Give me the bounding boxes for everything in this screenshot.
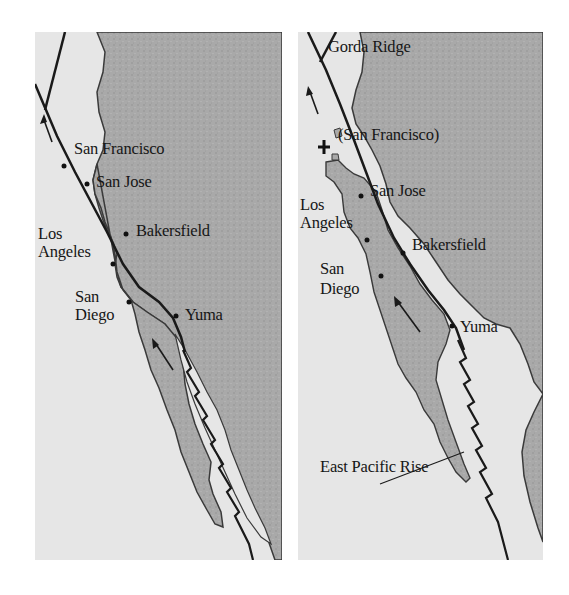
label-san-francisco: (San Francisco): [338, 126, 439, 143]
city-dot-icon: [365, 238, 370, 243]
label-yuma: Yuma: [460, 318, 498, 335]
map-panel-future: Gorda Ridge (San Francisco) San Jose Los…: [298, 32, 543, 560]
label-san-jose: San Jose: [370, 182, 426, 199]
city-dot-icon: [62, 164, 67, 169]
city-dot-icon: [127, 300, 132, 305]
label-los: Los: [38, 225, 62, 242]
label-gorda-ridge: Gorda Ridge: [328, 38, 411, 55]
city-dot-icon: [111, 262, 116, 267]
map-panel-present: San Francisco San Jose Los Angeles Baker…: [35, 32, 282, 560]
city-dot-icon: [174, 314, 179, 319]
label-san-jose: San Jose: [96, 173, 152, 190]
label-yuma: Yuma: [185, 306, 223, 323]
label-san-francisco: San Francisco: [74, 140, 164, 157]
label-bakersfield: Bakersfield: [412, 236, 486, 253]
city-dot-icon: [450, 324, 455, 329]
city-dot-icon: [85, 182, 90, 187]
city-dot-icon: [124, 232, 129, 237]
label-los: Los: [300, 196, 324, 213]
label-san: San: [75, 288, 99, 305]
city-dot-icon: [401, 251, 406, 256]
city-dot-icon: [379, 274, 384, 279]
label-angeles: Angeles: [38, 243, 91, 260]
city-dot-icon: [359, 194, 364, 199]
label-diego: Diego: [75, 306, 114, 323]
label-bakersfield: Bakersfield: [136, 222, 210, 239]
label-angeles: Angeles: [300, 214, 353, 231]
island: [332, 154, 339, 160]
map-svg-present: [35, 32, 282, 560]
label-diego: Diego: [320, 280, 359, 297]
label-east-pacific-rise: East Pacific Rise: [320, 458, 428, 475]
label-san: San: [320, 260, 344, 277]
